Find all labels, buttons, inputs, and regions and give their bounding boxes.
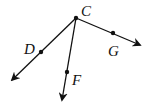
label-D: D: [23, 41, 35, 57]
point-D: [39, 50, 43, 54]
label-C: C: [81, 3, 92, 19]
label-F: F: [71, 72, 82, 88]
point-G: [111, 31, 115, 35]
point-F: [65, 70, 69, 74]
label-G: G: [108, 43, 119, 59]
vertex-point-C: [74, 16, 78, 20]
ray-CG: [76, 18, 140, 45]
diagram-canvas: DFGC: [0, 0, 146, 104]
